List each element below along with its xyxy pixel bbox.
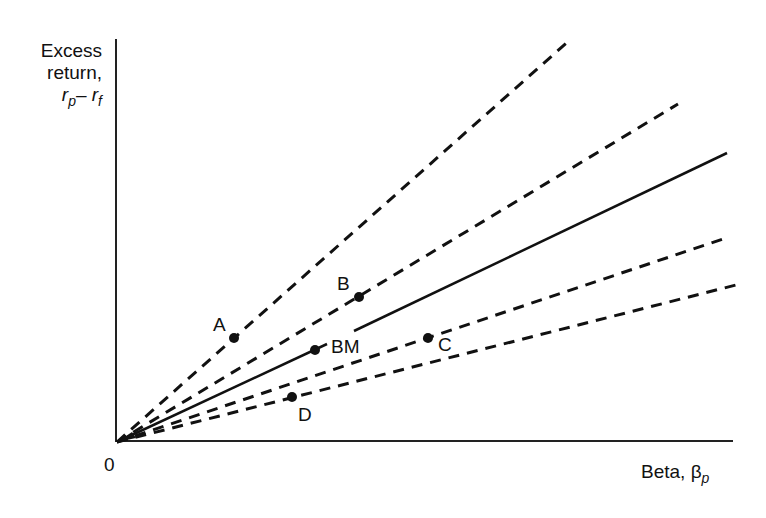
security-market-diagram <box>0 0 766 518</box>
point-d <box>287 392 297 402</box>
point-b <box>354 292 364 302</box>
ray-bm-segment-1 <box>117 344 327 442</box>
label-b: B <box>337 274 350 294</box>
x-axis-label-text: Beta, β <box>641 461 702 482</box>
point-a <box>229 333 239 343</box>
label-c: C <box>438 335 452 355</box>
point-c <box>423 333 433 343</box>
y-axis-label-formula: rp– rf <box>41 84 102 112</box>
sub-f: f <box>98 93 102 109</box>
minus-sign: – <box>76 84 92 105</box>
y-axis-label-line1: Excess <box>41 40 102 62</box>
ray-bm-segment-2 <box>354 153 727 331</box>
y-axis-label-line2: return, <box>41 62 102 84</box>
ray-d <box>117 285 736 442</box>
y-axis-label: Excess return, rp– rf <box>41 40 102 112</box>
sub-p: p <box>702 470 710 486</box>
ray-a <box>117 39 571 442</box>
x-axis-label: Beta, βp <box>641 461 709 486</box>
origin-label: 0 <box>104 454 115 476</box>
sub-p: p <box>68 93 76 109</box>
label-a: A <box>213 315 226 335</box>
label-bm: BM <box>331 337 360 357</box>
point-bm <box>310 345 320 355</box>
label-d: D <box>298 405 312 425</box>
ray-c <box>117 239 723 442</box>
ray-b <box>117 104 678 442</box>
